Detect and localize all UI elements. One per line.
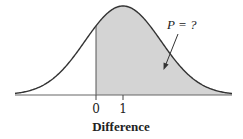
normal-curve-chart: 0 1 Difference P = ? [0,0,243,139]
shaded-area [96,6,232,95]
tick-label-0: 0 [92,102,100,116]
x-axis-title: Difference [92,119,150,134]
tick-label-1: 1 [119,102,127,116]
p-annotation: P = ? [166,17,197,32]
